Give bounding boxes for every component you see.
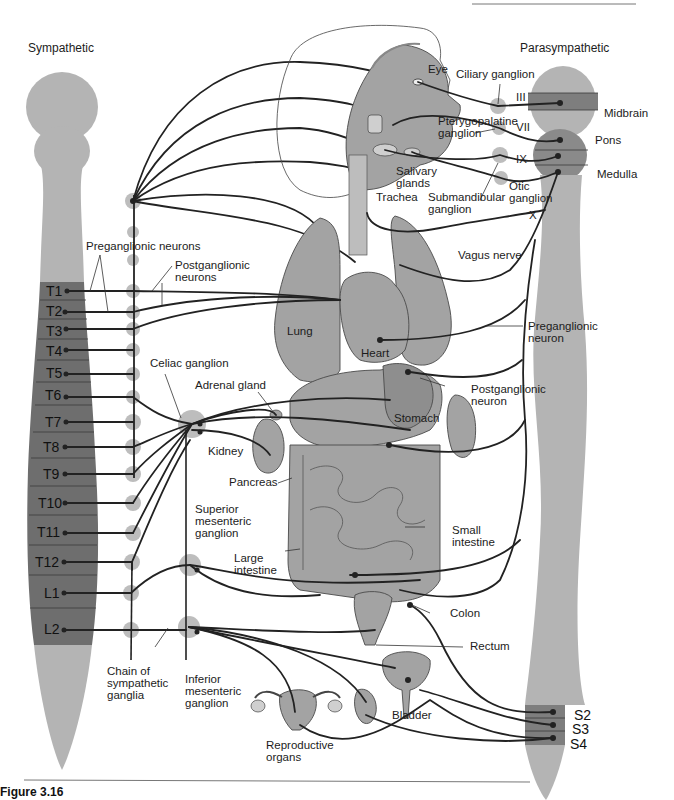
label-inferior-mesenteric-3: ganglion <box>185 697 228 709</box>
cranial-ganglia <box>490 98 508 185</box>
label-large-intestine-1: Large <box>234 552 263 564</box>
segment-label-t9: T9 <box>43 466 60 482</box>
label-kidney: Kidney <box>208 445 243 457</box>
figure-caption: Figure 3.16 <box>0 785 63 799</box>
trachea-illustration <box>349 155 367 255</box>
segment-label-t5: T5 <box>46 365 63 381</box>
label-small-intestine-1: Small <box>452 524 481 536</box>
label-colon: Colon <box>450 607 480 619</box>
segment-label-t12: T12 <box>35 554 59 570</box>
label-salivary-glands-1: Salivary <box>396 165 437 177</box>
sympathetic-spinal-cord <box>26 72 98 770</box>
label-s4: S4 <box>570 736 587 752</box>
label-pterygopalatine-1: Pterygopalatine <box>438 115 518 127</box>
label-postganglionic-neurons-1: Postganglionic <box>175 259 250 271</box>
intestines-illustration <box>288 445 440 602</box>
label-pons: Pons <box>595 134 621 146</box>
label-cn-vii: VII <box>516 121 530 133</box>
segment-label-l2: L2 <box>44 621 60 637</box>
label-salivary-glands-2: glands <box>396 177 430 189</box>
label-inferior-mesenteric-2: mesenteric <box>185 685 241 697</box>
sympathetic-title: Sympathetic <box>28 41 94 55</box>
label-vagus-nerve: Vagus nerve <box>458 249 522 261</box>
label-otic-ganglion-1: Otic <box>509 180 530 192</box>
segment-label-t2: T2 <box>46 303 63 319</box>
label-otic-ganglion-2: ganglion <box>509 192 552 204</box>
label-heart: Heart <box>361 347 390 359</box>
segment-label-t7: T7 <box>45 414 62 430</box>
label-cn-x: X <box>529 209 537 221</box>
segment-label-t6: T6 <box>45 387 62 403</box>
label-preganglionic-neurons: Preganglionic neurons <box>86 240 201 252</box>
label-adrenal-gland: Adrenal gland <box>195 379 266 391</box>
label-pancreas: Pancreas <box>229 476 278 488</box>
label-chain-1: Chain of <box>107 665 151 677</box>
label-reproductive-1: Reproductive <box>266 739 334 751</box>
label-superior-mesenteric-1: Superior <box>195 503 239 515</box>
label-large-intestine-2: intestine <box>234 564 277 576</box>
label-pterygopalatine-2: ganglion <box>438 127 481 139</box>
label-rectum: Rectum <box>470 640 510 652</box>
rectum-illustration <box>354 592 392 645</box>
autonomic-nervous-system-diagram: Sympathetic T1 T2 T3 T4 T5 T6 T7 T8 T9 T… <box>0 0 674 800</box>
label-cn-ix: IX <box>516 153 527 165</box>
label-small-intestine-2: intestine <box>452 536 495 548</box>
segment-label-t3: T3 <box>46 323 63 339</box>
reproductive-organs-illustration <box>251 689 376 730</box>
label-s3: S3 <box>572 721 589 737</box>
label-postganglionic-neurons-2: neurons <box>175 271 217 283</box>
label-submandibular-2: ganglion <box>428 203 471 215</box>
segment-label-t1: T1 <box>46 283 63 299</box>
label-trachea: Trachea <box>376 191 418 203</box>
label-eye: Eye <box>428 63 448 75</box>
parasympathetic-spinal-cord <box>525 66 598 800</box>
label-ciliary-ganglion: Ciliary ganglion <box>456 68 535 80</box>
label-reproductive-2: organs <box>266 751 301 763</box>
label-superior-mesenteric-3: ganglion <box>195 527 238 539</box>
parasympathetic-title: Parasympathetic <box>520 41 609 55</box>
label-lung: Lung <box>287 325 313 337</box>
label-preganglionic-neuron-2: neuron <box>528 332 564 344</box>
label-cn-iii: III <box>516 91 526 103</box>
segment-label-t8: T8 <box>43 439 60 455</box>
label-bladder: Bladder <box>392 709 432 721</box>
label-midbrain: Midbrain <box>604 107 648 119</box>
label-superior-mesenteric-2: mesenteric <box>195 515 251 527</box>
label-submandibular-1: Submandibular <box>428 191 506 203</box>
segment-label-t10: T10 <box>38 495 62 511</box>
segment-label-t4: T4 <box>46 343 63 359</box>
label-chain-3: ganglia <box>107 689 145 701</box>
label-medulla: Medulla <box>597 168 638 180</box>
label-inferior-mesenteric-1: Inferior <box>185 673 221 685</box>
segment-label-t11: T11 <box>37 524 60 540</box>
label-stomach: Stomach <box>394 412 439 424</box>
label-chain-2: sympathetic <box>107 677 169 689</box>
label-celiac-ganglion: Celiac ganglion <box>150 357 229 369</box>
label-preganglionic-neuron-1: Preganglionic <box>528 320 598 332</box>
bottom-rule <box>24 780 530 782</box>
label-postganglionic-neuron-2: neuron <box>471 395 507 407</box>
segment-label-l1: L1 <box>44 585 60 601</box>
label-postganglionic-neuron-1: Postganglionic <box>471 383 546 395</box>
